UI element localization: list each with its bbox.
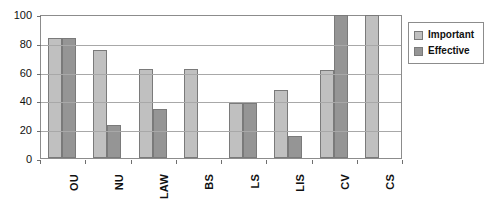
bar-group [182,16,227,158]
x-axis-tick-mark [266,160,267,164]
y-axis-tick-label: 20 [20,125,32,136]
bar-group [46,16,91,158]
y-axis-tick-label: 100 [14,10,32,21]
bar-cv-important[interactable] [320,70,334,158]
gridline [41,102,401,103]
x-axis-label-cv: CV [340,174,351,190]
y-axis-tick-label: 80 [20,38,32,49]
legend-label: Effective [428,46,470,56]
bar-lis-important[interactable] [274,90,288,158]
gridline [41,74,401,75]
x-axis-label-law: LAW [159,174,170,199]
x-axis-tick-mark [40,160,41,164]
y-axis-tick-mark [37,131,41,132]
x-axis-tick-mark [312,160,313,164]
x-axis-label-ls: LS [250,174,261,188]
bar-chart: 020406080100 OUNULAWBSLSLISCVCS Importan… [0,0,488,208]
plot-area [40,15,402,159]
bar-law-effective[interactable] [153,109,167,158]
bar-group [227,16,272,158]
x-axis-tick-mark [357,160,358,164]
x-axis-label-lis: LIS [295,174,306,192]
y-axis-tick-label: 40 [20,96,32,107]
chart-legend: ImportantEffective [408,22,484,64]
bar-lis-effective[interactable] [288,136,302,158]
bar-group [318,16,363,158]
x-axis-category-labels: OUNULAWBSLSLISCVCS [40,160,402,208]
gridline [41,45,401,46]
y-axis-tick-label: 60 [20,67,32,78]
y-axis-tick-label: 0 [26,154,32,165]
legend-item-effective[interactable]: Effective [414,43,479,59]
bar-law-important[interactable] [139,69,153,158]
bar-nu-important[interactable] [93,50,107,158]
x-axis-tick-mark [131,160,132,164]
x-axis-tick-mark [402,160,403,164]
legend-label: Important [428,30,474,40]
gridline [41,131,401,132]
x-axis-label-bs: BS [204,174,215,190]
y-axis-tick-mark [37,102,41,103]
bar-ou-effective[interactable] [62,38,76,158]
x-axis-label-ou: OU [69,174,80,191]
x-axis-tick-mark [85,160,86,164]
bar-cv-effective[interactable] [334,15,348,158]
y-axis-tick-mark [37,45,41,46]
legend-swatch-effective [414,47,423,56]
legend-item-important[interactable]: Important [414,27,479,43]
bar-group [272,16,317,158]
legend-swatch-important [414,31,423,40]
bar-nu-effective[interactable] [107,125,121,158]
bars-layer [41,16,401,158]
bar-group [91,16,136,158]
y-axis-tick-mark [37,16,41,17]
bar-group [137,16,182,158]
bar-cs-important[interactable] [365,15,379,158]
x-axis-tick-mark [221,160,222,164]
x-axis-tick-mark [176,160,177,164]
x-axis-label-nu: NU [114,174,125,190]
bar-bs-important[interactable] [184,69,198,158]
y-axis-tick-mark [37,74,41,75]
bar-ou-important[interactable] [48,38,62,158]
bar-group [363,16,408,158]
y-axis-tick-labels: 020406080100 [0,0,36,208]
x-axis-label-cs: CS [385,174,396,190]
